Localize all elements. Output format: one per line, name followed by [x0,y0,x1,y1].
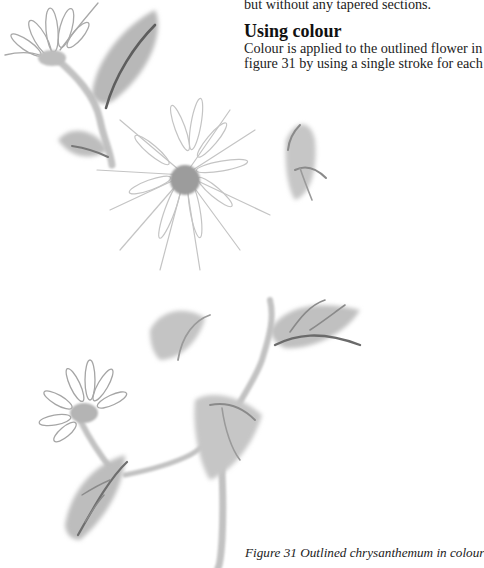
small-flower-bottom-center [70,403,98,423]
paragraph-line: figure 31 by using a single stroke for e… [244,56,484,71]
paragraph-line: Colour is applied to the outlined flower… [244,41,484,56]
paragraph: Colour is applied to the outlined flower… [244,41,484,71]
figure-caption: Figure 31 Outlined chrysanthemum in colo… [245,545,484,561]
body-text: but without any tapered sections. Using … [244,0,484,71]
section-heading: Using colour [244,22,484,41]
partial-paragraph-line: but without any tapered sections. [244,0,484,12]
main-flower-center [170,165,200,195]
small-flower-top-center [38,50,66,66]
